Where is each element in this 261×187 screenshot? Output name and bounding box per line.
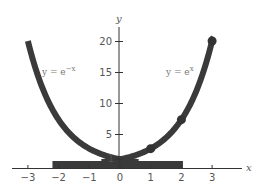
y-tick-label: 20	[99, 36, 112, 47]
y-tick-label: 15	[99, 67, 112, 78]
curve-e-x	[102, 38, 214, 162]
y-axis-label: y	[115, 13, 122, 24]
data-point-marker	[146, 144, 155, 153]
curve-label-e-neg-x: y = e−x	[41, 65, 76, 77]
y-tick-label: 5	[106, 129, 112, 140]
curve-e-neg-x	[28, 41, 139, 162]
x-tick-label: 0	[117, 172, 123, 183]
y-tick-label: 10	[99, 98, 112, 109]
y-tick-label: 1	[108, 153, 114, 164]
x-tick-label: −1	[82, 172, 97, 183]
curves	[28, 36, 217, 168]
x-tick-label: 1	[148, 172, 154, 183]
data-point-marker	[177, 115, 186, 124]
x-tick-label: −2	[51, 172, 66, 183]
curve-label-e-x: y = ex	[165, 65, 194, 77]
exponential-chart: −3−2−1012315101520xyy = e−xy = ex	[0, 0, 261, 187]
data-point-marker	[208, 36, 217, 45]
x-tick-label: −3	[21, 172, 36, 183]
x-tick-label: 3	[209, 172, 215, 183]
x-tick-label: 2	[178, 172, 184, 183]
x-axis-label: x	[246, 162, 252, 173]
